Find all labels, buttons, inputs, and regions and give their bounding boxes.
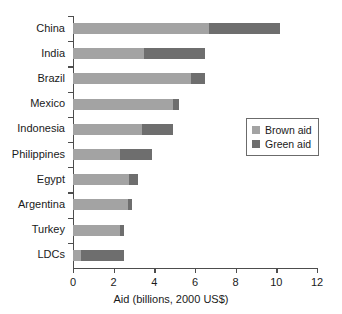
bar-track [73, 124, 173, 135]
bar-row [73, 66, 317, 91]
y-axis-tick [68, 41, 73, 42]
bar-track [73, 99, 179, 110]
x-axis-tick [195, 268, 196, 273]
y-axis-label-turkey: Turkey [32, 224, 65, 235]
stacked-bar-chart: ChinaIndiaBrazilMexicoIndonesiaPhilippin… [0, 0, 342, 314]
bar-row [73, 218, 317, 243]
y-axis-label-argentina: Argentina [18, 199, 65, 210]
y-axis-tick [68, 218, 73, 219]
bar-segment-green-aid [173, 99, 179, 110]
y-axis-tick [68, 142, 73, 143]
y-axis-label-indonesia: Indonesia [17, 123, 65, 134]
bar-track [73, 48, 205, 59]
bar-track [73, 199, 132, 210]
y-axis-tick [68, 66, 73, 67]
bar-segment-brown-aid [73, 48, 144, 59]
bar-row [73, 16, 317, 41]
y-axis-tick [68, 192, 73, 193]
bar-row [73, 167, 317, 192]
bar-track [73, 250, 124, 261]
y-axis-label-mexico: Mexico [30, 98, 65, 109]
bar-segment-green-aid [129, 174, 138, 185]
x-axis-tick-label: 8 [221, 276, 251, 288]
legend-swatch-icon-brown-aid [252, 126, 260, 134]
bar-segment-brown-aid [73, 23, 209, 34]
x-axis-tick-label: 12 [302, 276, 332, 288]
legend-label-brown-aid: Brown aid [265, 124, 312, 136]
legend-label-green-aid: Green aid [265, 138, 311, 150]
x-axis-tick [236, 268, 237, 273]
bar-segment-brown-aid [73, 124, 142, 135]
chart-legend: Brown aid Green aid [246, 118, 319, 156]
legend-item-green-aid: Green aid [252, 137, 312, 151]
y-axis-tick [68, 16, 73, 17]
bar-segment-brown-aid [73, 149, 120, 160]
bar-track [73, 174, 138, 185]
bar-row [73, 92, 317, 117]
bar-track [73, 225, 124, 236]
x-axis-tick-label: 4 [139, 276, 169, 288]
x-axis-tick-label: 6 [180, 276, 210, 288]
x-axis-tick [114, 268, 115, 273]
y-axis-label-philippines: Philippines [12, 149, 65, 160]
bar-track [73, 23, 280, 34]
y-axis-label-china: China [36, 23, 65, 34]
bar-segment-brown-aid [73, 174, 129, 185]
bar-row [73, 192, 317, 217]
bar-segment-green-aid [144, 48, 205, 59]
x-axis-tick-label: 0 [58, 276, 88, 288]
bar-segment-green-aid [142, 124, 173, 135]
bar-segment-green-aid [128, 199, 132, 210]
bar-segment-brown-aid [73, 250, 81, 261]
x-axis-tick-label: 10 [261, 276, 291, 288]
x-axis-tick [73, 268, 74, 273]
bar-segment-green-aid [120, 225, 124, 236]
legend-swatch-icon-green-aid [252, 140, 260, 148]
y-axis-label-ldcs: LDCs [37, 249, 65, 260]
y-axis-label-egypt: Egypt [37, 174, 65, 185]
bar-segment-brown-aid [73, 99, 173, 110]
bar-segment-brown-aid [73, 73, 191, 84]
bar-segment-green-aid [120, 149, 153, 160]
y-axis-tick [68, 117, 73, 118]
y-axis-tick [68, 167, 73, 168]
bar-segment-green-aid [81, 250, 124, 261]
bar-row [73, 243, 317, 268]
x-axis-tick-label: 2 [99, 276, 129, 288]
bar-segment-brown-aid [73, 225, 120, 236]
y-axis-tick [68, 243, 73, 244]
x-axis-tick [276, 268, 277, 273]
x-axis-title: Aid (billions, 2000 US$) [0, 293, 342, 306]
legend-item-brown-aid: Brown aid [252, 123, 312, 137]
y-axis-label-india: India [41, 48, 65, 59]
bar-segment-green-aid [209, 23, 280, 34]
x-axis-tick [154, 268, 155, 273]
x-axis-tick [317, 268, 318, 273]
y-axis-label-brazil: Brazil [37, 73, 65, 84]
bar-row [73, 41, 317, 66]
bar-track [73, 73, 205, 84]
y-axis-tick [68, 92, 73, 93]
bar-track [73, 149, 152, 160]
bar-segment-green-aid [191, 73, 205, 84]
bar-segment-brown-aid [73, 199, 128, 210]
